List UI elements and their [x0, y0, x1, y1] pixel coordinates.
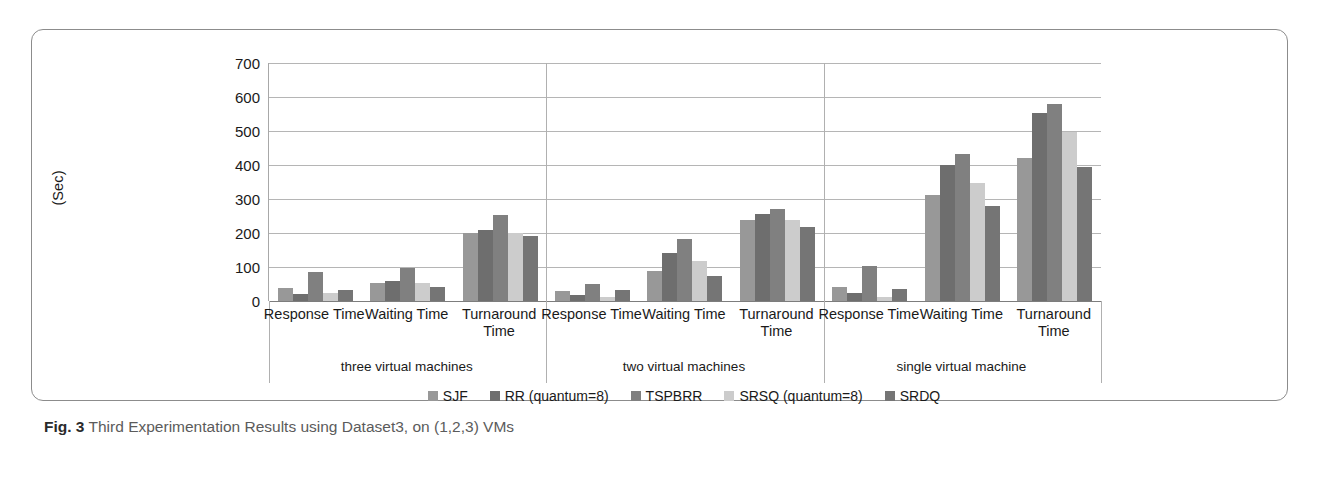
- bar: [523, 236, 538, 301]
- bar: [832, 287, 847, 301]
- y-axis-title: (Sec): [50, 153, 66, 223]
- bar: [877, 297, 892, 301]
- bar: [892, 289, 907, 301]
- bar: [1017, 158, 1032, 301]
- figure-caption: Fig. 3 Third Experimentation Results usi…: [44, 418, 1144, 437]
- bar: [770, 209, 785, 301]
- bar: [925, 195, 940, 301]
- legend-swatch-icon: [428, 391, 438, 401]
- y-axis-tick-700: 700: [214, 56, 260, 71]
- y-axis-tick-labels: 7006005004003002001000: [214, 56, 260, 304]
- legend-swatch-icon: [490, 391, 500, 401]
- legend-swatch-icon: [724, 391, 734, 401]
- plot-area: [268, 63, 1101, 301]
- bar: [615, 290, 630, 301]
- bar: [415, 283, 430, 301]
- x-axis-line: [269, 301, 1101, 302]
- bar: [692, 261, 707, 301]
- category-axis-labels: Response TimeWaiting TimeTurnaround Time…: [268, 306, 1100, 350]
- bar: [847, 293, 862, 302]
- legend-label: RR (quantum=8): [505, 388, 609, 404]
- bar: [647, 271, 662, 301]
- bar-cluster: [1009, 63, 1101, 301]
- legend-label: SRDQ: [900, 388, 940, 404]
- legend-item[interactable]: SRDQ: [885, 388, 940, 404]
- bar: [430, 287, 445, 301]
- chart-legend: SJFRR (quantum=8)TSPBRRSRSQ (quantum=8)S…: [268, 385, 1100, 407]
- bar: [985, 206, 1000, 301]
- bar: [662, 253, 677, 301]
- legend-label: SJF: [443, 388, 468, 404]
- bar-cluster: [546, 63, 638, 301]
- bars-layer: [269, 63, 1101, 301]
- bar-cluster: [731, 63, 823, 301]
- bar: [600, 297, 615, 301]
- bar-cluster: [824, 63, 916, 301]
- y-axis-tick-0: 0: [214, 294, 260, 309]
- bar: [707, 276, 722, 301]
- y-axis-tick-300: 300: [214, 192, 260, 207]
- bar-cluster: [639, 63, 731, 301]
- bar-cluster: [454, 63, 546, 301]
- bar: [585, 284, 600, 301]
- bar: [400, 268, 415, 301]
- y-axis-tick-500: 500: [214, 124, 260, 139]
- bar: [308, 272, 323, 301]
- group-label: three virtual machines: [268, 359, 545, 374]
- legend-label: TSPBRR: [646, 388, 703, 404]
- legend-item[interactable]: TSPBRR: [631, 388, 703, 404]
- bar: [338, 290, 353, 301]
- y-axis-tick-200: 200: [214, 226, 260, 241]
- bar: [463, 233, 478, 301]
- bar: [385, 281, 400, 301]
- bar-cluster: [361, 63, 453, 301]
- bar: [508, 233, 523, 301]
- bar: [570, 295, 585, 301]
- group-axis-labels: three virtual machinestwo virtual machin…: [268, 354, 1100, 382]
- bar: [278, 288, 293, 301]
- bar-group-0: [269, 63, 546, 301]
- y-axis-tick-100: 100: [214, 260, 260, 275]
- bar: [677, 239, 692, 301]
- bar: [293, 294, 308, 301]
- figure-caption-label: Fig. 3: [44, 418, 84, 435]
- bar: [1062, 132, 1077, 301]
- bar: [1047, 104, 1062, 301]
- legend-item[interactable]: SRSQ (quantum=8): [724, 388, 862, 404]
- category-label: Turnaround Time: [1000, 306, 1108, 340]
- bar: [1077, 167, 1092, 301]
- legend-label: SRSQ (quantum=8): [739, 388, 862, 404]
- legend-item[interactable]: RR (quantum=8): [490, 388, 609, 404]
- bar: [478, 230, 493, 301]
- legend-item[interactable]: SJF: [428, 388, 468, 404]
- bar: [493, 215, 508, 301]
- y-axis-tick-400: 400: [214, 158, 260, 173]
- bar: [555, 291, 570, 301]
- bar: [785, 220, 800, 301]
- grouped-bar-chart: (Sec) 7006005004003002001000 Response Ti…: [32, 30, 1289, 402]
- bar-cluster: [269, 63, 361, 301]
- bar-group-2: [824, 63, 1101, 301]
- group-label: two virtual machines: [545, 359, 822, 374]
- figure-caption-text: Third Experimentation Results using Data…: [89, 418, 515, 435]
- bar: [755, 214, 770, 301]
- bar: [862, 266, 877, 301]
- legend-swatch-icon: [885, 391, 895, 401]
- y-axis-tick-600: 600: [214, 90, 260, 105]
- bar-cluster: [916, 63, 1008, 301]
- bar: [970, 183, 985, 301]
- bar: [1032, 113, 1047, 301]
- figure-frame: (Sec) 7006005004003002001000 Response Ti…: [31, 29, 1288, 401]
- bar: [323, 293, 338, 301]
- bar: [955, 154, 970, 301]
- bar: [940, 165, 955, 301]
- legend-swatch-icon: [631, 391, 641, 401]
- bar: [740, 220, 755, 301]
- bar: [800, 227, 815, 301]
- bar-group-1: [546, 63, 823, 301]
- group-label: single virtual machine: [823, 359, 1100, 374]
- bar: [370, 283, 385, 301]
